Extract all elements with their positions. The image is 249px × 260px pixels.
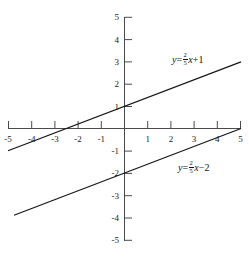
y-tick-label: 2 [115,80,120,89]
equation-label-line-2: y=25x−2 [178,160,209,175]
x-tick-label: -1 [98,135,106,144]
y-tick-label: 5 [115,13,120,22]
y-tick-label: -5 [112,236,120,245]
x-tick-label: -5 [4,135,12,144]
x-tick-label: -2 [74,135,82,144]
x-tick-label: 5 [238,135,243,144]
y-tick-label: 3 [115,57,120,66]
y-tick-label: -3 [112,191,120,200]
equation-1-equals: = [176,54,182,65]
y-tick-label: -1 [112,147,120,156]
y-tick-label: -4 [112,214,120,223]
equation-1-constant: 1 [198,54,203,65]
equation-2-constant: 2 [204,162,209,173]
equation-2-equals: = [182,162,188,173]
graph-figure: -5 -4 -3 -2 -1 1 2 3 4 5 5 4 3 2 1 -1 -2… [0,0,249,260]
x-tick-label: 4 [215,135,220,144]
x-tick-label: 3 [192,135,197,144]
equation-label-line-1: y=25x+1 [172,52,203,67]
x-tick-label: -4 [28,135,36,144]
y-tick-label: 1 [115,102,120,111]
x-tick-label: 2 [169,135,174,144]
y-tick-label: 4 [115,35,120,44]
y-tick-label: -2 [112,169,120,178]
x-tick-label: 1 [145,135,150,144]
coordinate-plane [0,0,249,260]
x-tick-label: -3 [51,135,59,144]
